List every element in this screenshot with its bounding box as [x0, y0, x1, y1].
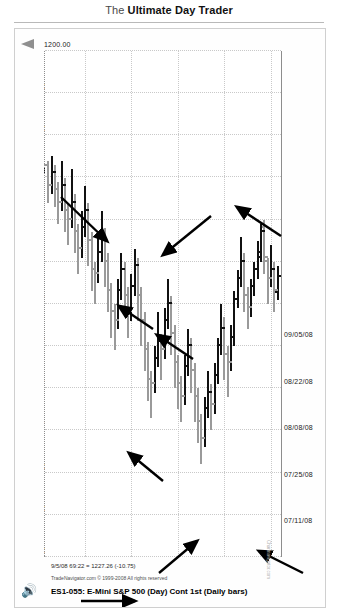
bar-open-tick	[189, 344, 192, 346]
price-axis: 1320.001310.001300.001290.001280.001270.…	[15, 51, 45, 557]
bar-open-tick	[73, 201, 76, 203]
bar-open-tick	[176, 361, 179, 363]
bar-open-tick	[235, 298, 238, 300]
plot-area	[45, 51, 281, 557]
price-gridline	[45, 50, 281, 51]
bar-open-tick	[169, 302, 172, 304]
bar-open-tick	[63, 184, 66, 186]
date-gridline	[178, 51, 179, 557]
bar-open-tick	[209, 391, 212, 393]
header-divider	[14, 22, 324, 23]
price-gridline	[45, 92, 281, 93]
rotated-chart-canvas: 1320.001310.001300.001290.001280.001270.…	[15, 29, 307, 603]
bar-open-tick	[156, 357, 159, 359]
bar-open-tick	[222, 327, 225, 329]
bar-open-tick	[245, 294, 248, 296]
bar-close-tick	[44, 164, 47, 166]
bar-open-tick	[202, 437, 205, 439]
bar-open-tick	[225, 353, 228, 355]
chart-figure: 1320.001310.001300.001290.001280.001270.…	[14, 28, 326, 608]
bar-open-tick	[262, 230, 265, 232]
date-gridline	[224, 51, 225, 557]
date-tick-label: 07/25/08	[284, 471, 313, 478]
chart-series-title: ES1-055: E-Mini S&P 500 (Day) Cont 1st (…	[51, 587, 247, 596]
bar-open-tick	[199, 420, 202, 422]
bar-open-tick	[136, 264, 139, 266]
last-quote-label: 9/5/08 69:22 = 1227.26 (-10.75)	[51, 563, 136, 569]
price-gridline	[45, 134, 281, 135]
bar-open-tick	[162, 348, 165, 350]
bar-open-tick	[192, 369, 195, 371]
bar-open-tick	[129, 310, 132, 312]
price-gridline	[45, 556, 281, 557]
date-tick-label: 07/11/08	[284, 517, 312, 524]
bar-open-tick	[272, 268, 275, 270]
date-axis-line	[281, 51, 282, 557]
bar-open-tick	[59, 201, 62, 203]
bar-open-tick	[89, 239, 92, 241]
bar-open-tick	[275, 289, 278, 291]
price-gridline	[45, 472, 281, 473]
bar-high-low	[47, 161, 49, 203]
bar-open-tick	[109, 289, 112, 291]
bar-open-tick	[142, 319, 145, 321]
bar-open-tick	[206, 407, 209, 409]
price-gridline	[45, 387, 281, 388]
page-title: The Ultimate Day Trader	[105, 4, 233, 16]
page-title-prefix: The	[105, 4, 127, 16]
bar-open-tick	[76, 230, 79, 232]
bar-open-tick	[49, 184, 52, 186]
bar-open-tick	[252, 285, 255, 287]
bar-open-tick	[242, 260, 245, 262]
date-gridline	[85, 51, 86, 557]
up-arrow-icon	[21, 39, 34, 49]
bar-open-tick	[149, 378, 152, 380]
bar-open-tick	[269, 277, 272, 279]
bar-open-tick	[196, 395, 199, 397]
bar-open-tick	[255, 268, 258, 270]
bar-open-tick	[106, 260, 109, 262]
bar-open-tick	[86, 209, 89, 211]
bar-open-tick	[166, 319, 169, 321]
price-gridline	[45, 430, 281, 431]
bar-open-tick	[66, 209, 69, 211]
speaker-icon: 🔊	[21, 583, 39, 599]
bar-open-tick	[159, 340, 162, 342]
bar-open-tick	[79, 247, 82, 249]
ohlc-bar	[45, 161, 51, 203]
bar-open-tick	[152, 382, 155, 384]
bar-open-tick	[56, 188, 59, 190]
bar-open-tick	[249, 306, 252, 308]
bar-open-tick	[122, 268, 125, 270]
date-tick-label: 09/05/08	[284, 331, 313, 338]
bar-open-tick	[172, 332, 175, 334]
bar-open-tick	[69, 218, 72, 220]
bar-open-tick	[99, 251, 102, 253]
date-tick-label: 08/22/08	[284, 378, 313, 385]
bar-open-tick	[139, 294, 142, 296]
bar-open-tick	[265, 256, 268, 258]
bar-open-tick	[182, 395, 185, 397]
price-gridline	[45, 177, 281, 178]
chart-caption: ES1-055: E-Mini S&P 500 (Day) Cont 1st (…	[45, 559, 281, 601]
bar-open-tick	[96, 272, 99, 274]
bar-open-tick	[229, 361, 232, 363]
bar-open-tick	[219, 344, 222, 346]
bar-open-tick	[53, 171, 56, 173]
date-axis: 09/05/0808/22/0808/08/0807/25/0807/11/08	[281, 51, 307, 557]
bar-open-tick	[119, 289, 122, 291]
bar-open-tick	[93, 268, 96, 270]
bar-open-tick	[179, 382, 182, 384]
bar-open-tick	[83, 226, 86, 228]
chart-copyright: TradeNavigator.com © 1999-2008 All right…	[51, 575, 167, 581]
page-title-bold: Ultimate Day Trader	[128, 4, 233, 16]
bar-open-tick	[216, 374, 219, 376]
bar-open-tick	[146, 348, 149, 350]
bar-open-tick	[116, 319, 119, 321]
bar-open-tick	[103, 235, 106, 237]
bar-open-tick	[132, 285, 135, 287]
bar-open-tick	[259, 251, 262, 253]
price-gridline	[45, 514, 281, 515]
date-tick-label: 08/08/08	[284, 424, 313, 431]
price-tick-label: 1200.00	[44, 41, 71, 48]
